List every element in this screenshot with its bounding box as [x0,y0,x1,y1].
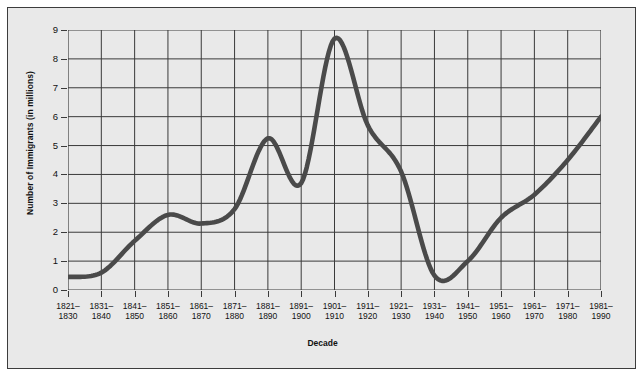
x-tick-mark [568,291,569,297]
x-tick-line: 1900 [292,311,311,321]
y-tick-label: 8 [34,54,58,64]
plot-area [68,30,601,290]
x-tick-mark [301,291,302,297]
x-tick-line: 1951– [489,301,513,311]
x-tick-line: 1961– [523,301,547,311]
x-axis-title: Decade [8,338,637,348]
x-tick-mark [601,291,602,297]
x-tick-mark [468,291,469,297]
x-tick-mark [368,291,369,297]
x-tick-line: 1971– [556,301,580,311]
x-tick-line: 1831– [89,301,113,311]
y-tick-label: 0 [34,285,58,295]
x-tick-line: 1930 [392,311,411,321]
y-tick-label: 4 [34,169,58,179]
y-tick-label: 2 [34,227,58,237]
y-tick-mark [61,146,67,147]
x-tick-line: 1880 [225,311,244,321]
x-tick-line: 1940 [425,311,444,321]
x-tick-line: 1901– [323,301,347,311]
x-tick-line: 1840 [92,311,111,321]
x-tick-line: 1850 [125,311,144,321]
y-tick-mark [61,261,67,262]
y-tick-mark [61,88,67,89]
y-tick-mark [61,232,67,233]
y-tick-mark [61,117,67,118]
chart-figure: Number of Immigrants (in millions) 01234… [7,7,636,369]
y-tick-label: 9 [34,25,58,35]
x-tick-line: 1990 [592,311,611,321]
y-tick-mark [61,30,67,31]
x-tick-mark [235,291,236,297]
x-tick-line: 1921– [389,301,413,311]
chart-canvas [68,30,601,290]
x-tick-line: 1931– [423,301,447,311]
x-tick-line: 1970 [525,311,544,321]
x-tick-line: 1851– [156,301,180,311]
x-tick-mark [68,291,69,297]
x-tick-mark [401,291,402,297]
x-tick-mark [268,291,269,297]
y-tick-mark [61,290,67,291]
x-tick-mark [201,291,202,297]
x-tick-line: 1890 [258,311,277,321]
x-tick-line: 1821– [56,301,80,311]
x-tick-line: 1950 [458,311,477,321]
x-tick-line: 1860 [158,311,177,321]
x-tick-mark [168,291,169,297]
y-tick-label: 5 [34,141,58,151]
x-tick-line: 1911– [356,301,379,311]
x-tick-line: 1870 [192,311,211,321]
y-tick-mark [61,203,67,204]
x-tick-line: 1910 [325,311,344,321]
x-tick-label: 1981–1990 [578,301,624,322]
x-tick-line: 1830 [59,311,78,321]
y-tick-mark [61,174,67,175]
x-tick-mark [534,291,535,297]
y-tick-mark [61,59,67,60]
x-tick-line: 1891– [289,301,313,311]
y-tick-label: 3 [34,198,58,208]
x-tick-mark [135,291,136,297]
y-tick-label: 6 [34,112,58,122]
x-tick-line: 1960 [492,311,511,321]
x-tick-line: 1920 [358,311,377,321]
x-tick-mark [335,291,336,297]
x-tick-line: 1841– [123,301,147,311]
x-tick-line: 1980 [558,311,577,321]
y-tick-label: 7 [34,83,58,93]
x-tick-mark [101,291,102,297]
x-tick-mark [434,291,435,297]
vertical-gridlines [68,30,601,290]
x-tick-mark [501,291,502,297]
x-tick-line: 1861– [189,301,213,311]
x-tick-line: 1881– [256,301,280,311]
x-tick-line: 1941– [456,301,480,311]
y-tick-label: 1 [34,256,58,266]
x-tick-line: 1871– [223,301,247,311]
x-tick-line: 1981– [589,301,613,311]
